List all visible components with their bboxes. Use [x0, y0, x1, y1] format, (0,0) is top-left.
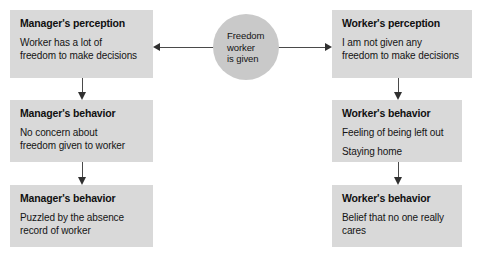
box-body: Worker has a lot of freedom to make deci… — [20, 37, 143, 62]
box-body-line: freedom to make decisions — [342, 50, 462, 63]
diagram-canvas: Manager's perception Worker has a lot of… — [0, 0, 480, 260]
box-title: Manager's behavior — [20, 107, 143, 120]
box-body-line: Belief that no one really — [342, 212, 452, 225]
box-body: I am not given any freedom to make decis… — [342, 37, 462, 62]
box-title: Worker's behavior — [342, 192, 452, 205]
box-body-line: Puzzled by the absence — [20, 212, 143, 225]
connector-right-horizontal — [276, 47, 326, 48]
connector-left-horizontal — [160, 47, 216, 48]
box-title: Worker's behavior — [342, 107, 452, 120]
box-body-line: freedom to make decisions — [20, 50, 143, 63]
box-body-line: I am not given any — [342, 37, 462, 50]
arrow-head-down-right-2 — [394, 177, 402, 185]
circle-freedom-worker-is-given: Freedom worker is given — [213, 14, 279, 80]
box-worker-behavior-2: Worker's behavior Belief that no one rea… — [332, 185, 462, 247]
arrow-head-left — [153, 43, 160, 51]
box-body: Feeling of being left out Staying home — [342, 127, 452, 158]
circle-label-line: Freedom — [213, 30, 279, 42]
box-worker-behavior-1: Worker's behavior Feeling of being left … — [332, 100, 462, 162]
box-body-line: Staying home — [342, 146, 452, 159]
box-manager-perception: Manager's perception Worker has a lot of… — [10, 10, 153, 78]
box-body: Belief that no one really cares — [342, 212, 452, 237]
box-title: Manager's behavior — [20, 192, 143, 205]
box-body-line: No concern about — [20, 127, 143, 140]
circle-label-line: is given — [213, 53, 279, 65]
arrow-head-right — [325, 43, 332, 51]
connector-right-vertical-2 — [398, 162, 399, 178]
box-worker-perception: Worker's perception I am not given any f… — [332, 10, 472, 78]
box-body-line: Worker has a lot of — [20, 37, 143, 50]
box-body-line: freedom given to worker — [20, 140, 143, 153]
box-body-line: record of worker — [20, 225, 143, 238]
arrow-head-down-left-2 — [78, 177, 86, 185]
box-body: Puzzled by the absence record of worker — [20, 212, 143, 237]
circle-label: Freedom worker is given — [213, 30, 279, 65]
box-body-line: cares — [342, 225, 452, 238]
box-manager-behavior-2: Manager's behavior Puzzled by the absenc… — [10, 185, 153, 247]
box-body: No concern about freedom given to worker — [20, 127, 143, 152]
arrow-head-down-left-1 — [78, 92, 86, 100]
box-manager-behavior-1: Manager's behavior No concern about free… — [10, 100, 153, 162]
circle-label-line: worker — [213, 41, 279, 53]
box-title: Worker's perception — [342, 17, 462, 30]
connector-left-vertical-2 — [82, 162, 83, 178]
box-body-line: Feeling of being left out — [342, 127, 452, 140]
arrow-head-down-right-1 — [394, 92, 402, 100]
box-title: Manager's perception — [20, 17, 143, 30]
